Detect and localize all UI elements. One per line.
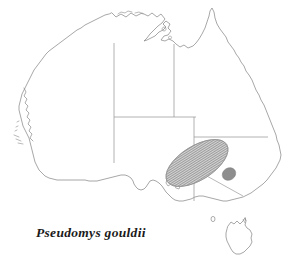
distribution-map-figure: Pseudomys gouldii [0,0,292,266]
species-caption: Pseudomys gouldii [36,225,146,241]
